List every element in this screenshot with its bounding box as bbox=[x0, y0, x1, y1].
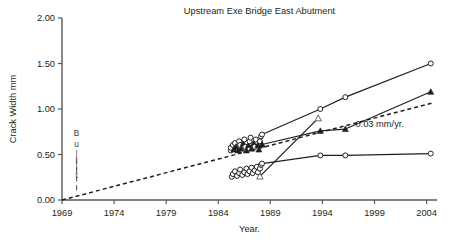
series-data-point bbox=[428, 89, 434, 95]
y-axis-label: Crack Width mm bbox=[8, 74, 18, 143]
built-label-letter: | bbox=[76, 150, 78, 159]
y-tick-label: 0.00 bbox=[37, 195, 55, 205]
series-data-point bbox=[343, 95, 348, 100]
y-tick-label: 2.00 bbox=[37, 13, 55, 23]
cluster-data-point bbox=[248, 135, 253, 140]
chart-title: Upstream Exe Bridge East Abutment bbox=[184, 6, 336, 16]
y-tick-label: 1.50 bbox=[37, 59, 55, 69]
series-data-point bbox=[428, 151, 433, 156]
series-data-point bbox=[318, 153, 323, 158]
x-tick-label: 1999 bbox=[364, 208, 385, 218]
y-tick-label: 0.50 bbox=[37, 150, 55, 160]
series-data-point bbox=[260, 161, 265, 166]
built-label-letter: B bbox=[74, 129, 80, 138]
x-tick-label: 2004 bbox=[416, 208, 437, 218]
annotation-label: 0.03 mm/yr. bbox=[355, 119, 404, 129]
x-tick-label: 1979 bbox=[156, 208, 177, 218]
x-tick-label: 1969 bbox=[52, 208, 73, 218]
series-line bbox=[260, 118, 318, 176]
chart-container: 0.000.501.001.502.0019691974197919841989… bbox=[0, 0, 453, 244]
x-tick-label: 1989 bbox=[260, 208, 281, 218]
x-axis-label: Year. bbox=[239, 224, 260, 234]
x-tick-label: 1974 bbox=[104, 208, 125, 218]
built-label-letter: t bbox=[75, 171, 78, 180]
built-label-letter: | bbox=[76, 161, 78, 170]
series-data-point bbox=[343, 153, 348, 158]
x-tick-label: 1994 bbox=[312, 208, 333, 218]
series-data-point bbox=[260, 132, 265, 137]
y-tick-label: 1.00 bbox=[37, 104, 55, 114]
series-data-point bbox=[318, 107, 323, 112]
built-label-letter: u bbox=[74, 140, 79, 149]
series-data-point bbox=[428, 61, 433, 66]
series-data-point bbox=[315, 115, 321, 121]
crack-width-line-chart: 0.000.501.001.502.0019691974197919841989… bbox=[0, 0, 453, 244]
cluster-data-point bbox=[242, 137, 247, 142]
x-tick-label: 1984 bbox=[208, 208, 229, 218]
